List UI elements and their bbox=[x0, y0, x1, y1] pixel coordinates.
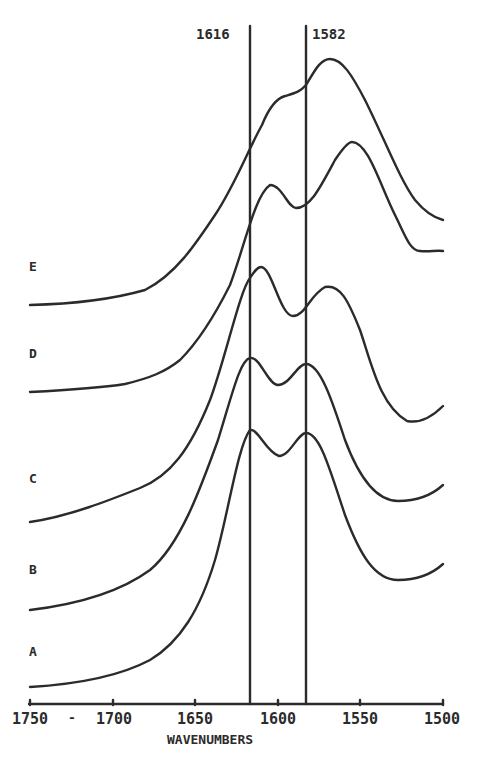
x-tick-label-1550: 1550 bbox=[342, 710, 378, 728]
x-tick-label-dash: - bbox=[68, 710, 76, 725]
x-tick-label-1700: 1700 bbox=[96, 710, 132, 728]
curve-label-c: C bbox=[29, 471, 37, 486]
x-tick-label-1600: 1600 bbox=[260, 710, 296, 728]
reference-label-1616: 1616 bbox=[196, 26, 230, 42]
x-axis-title: WAVENUMBERS bbox=[167, 732, 253, 747]
curve-label-d: D bbox=[29, 346, 37, 361]
spectrum-curve-d bbox=[30, 142, 443, 392]
x-tick-label-1500: 1500 bbox=[424, 710, 460, 728]
curve-label-e: E bbox=[29, 259, 37, 274]
spectrum-curve-a bbox=[30, 430, 443, 687]
curve-label-b: B bbox=[29, 562, 37, 577]
x-tick-label-1750: 1750 bbox=[12, 710, 48, 728]
ir-spectra-chart: 1616 1582 E D C B A 1750 - 1700 1650 160… bbox=[0, 0, 495, 760]
spectrum-curve-c bbox=[30, 267, 443, 522]
spectrum-curve-b bbox=[30, 358, 443, 610]
reference-label-1582: 1582 bbox=[312, 26, 346, 42]
curve-label-a: A bbox=[29, 644, 37, 659]
x-tick-label-1650: 1650 bbox=[177, 710, 213, 728]
